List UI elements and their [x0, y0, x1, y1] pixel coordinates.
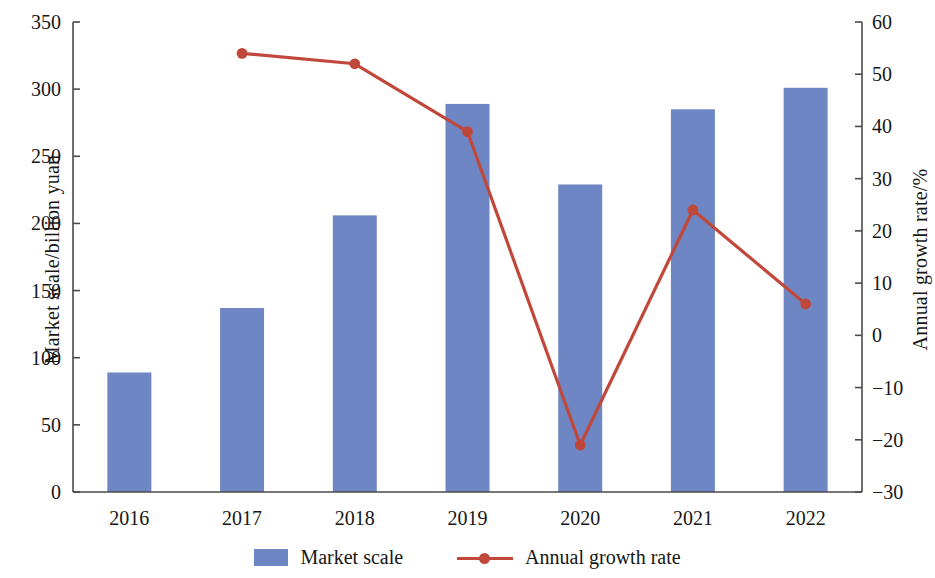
bar-2016: [107, 372, 151, 492]
bar-2021: [671, 109, 715, 492]
x-tick-label-2016: 2016: [109, 507, 149, 530]
left-tick-label-300: 300: [0, 78, 61, 101]
legend-label-market-scale: Market scale: [300, 546, 403, 569]
left-tick-label-150: 150: [0, 279, 61, 302]
line-marker-2018: [349, 58, 360, 69]
x-tick-label-2022: 2022: [786, 507, 826, 530]
line-marker-2020: [575, 440, 586, 451]
right-tick-label-20: 20: [872, 219, 935, 242]
left-axis-title: Market scale/billion yuan: [41, 90, 64, 430]
x-tick-label-2019: 2019: [448, 507, 488, 530]
bars-layer: [107, 88, 827, 492]
chart-figure: Market scale/billion yuan Annual growth …: [0, 0, 935, 578]
right-tick-label-0: 0: [872, 324, 935, 347]
line-layer: [237, 48, 811, 450]
bar-2019: [446, 104, 490, 492]
legend-item-market-scale: Market scale: [254, 546, 403, 569]
growth-rate-line: [242, 53, 806, 445]
x-tick-label-2017: 2017: [222, 507, 262, 530]
line-marker-2019: [462, 126, 473, 137]
x-tick-label-2018: 2018: [335, 507, 375, 530]
bar-2018: [333, 215, 377, 492]
right-tick-label--10: −10: [872, 376, 935, 399]
legend-line-swatch-icon: [457, 551, 513, 565]
right-tick-label--20: −20: [872, 428, 935, 451]
line-marker-2021: [688, 205, 699, 216]
left-tick-label-250: 250: [0, 145, 61, 168]
right-tick-label-60: 60: [872, 11, 935, 34]
left-tick-label-100: 100: [0, 346, 61, 369]
right-tick-label-50: 50: [872, 63, 935, 86]
left-tick-label-200: 200: [0, 212, 61, 235]
left-tick-label-50: 50: [0, 413, 61, 436]
legend-bar-swatch-icon: [254, 549, 288, 566]
legend-label-annual-growth-rate: Annual growth rate: [525, 546, 681, 569]
chart-legend: Market scale Annual growth rate: [0, 546, 935, 569]
line-marker-2017: [237, 48, 248, 59]
left-tick-label-350: 350: [0, 11, 61, 34]
right-tick-label-40: 40: [872, 115, 935, 138]
x-tick-label-2021: 2021: [673, 507, 713, 530]
right-tick-label-30: 30: [872, 167, 935, 190]
line-marker-2022: [800, 299, 811, 310]
left-tick-label-0: 0: [0, 481, 61, 504]
right-tick-label-10: 10: [872, 272, 935, 295]
x-tick-label-2020: 2020: [560, 507, 600, 530]
legend-item-annual-growth-rate: Annual growth rate: [457, 546, 681, 569]
plot-area: [0, 0, 935, 578]
right-tick-label--30: −30: [872, 481, 935, 504]
bar-2017: [220, 308, 264, 492]
